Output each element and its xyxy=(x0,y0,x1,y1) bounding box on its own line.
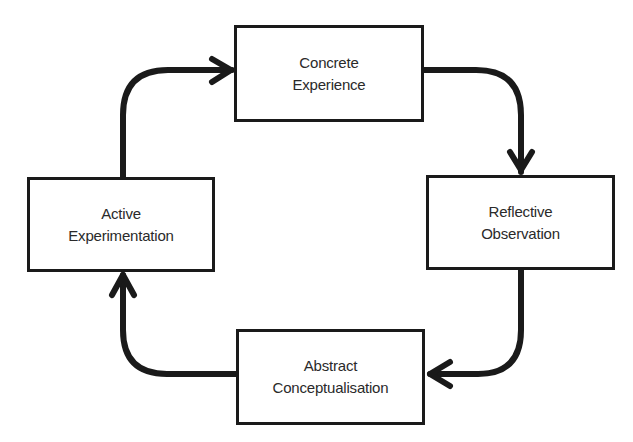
stage-label-line2: Experience xyxy=(292,74,365,96)
stage-label-line1: Abstract xyxy=(304,355,357,377)
arrow-experimentation-to-experience xyxy=(123,70,232,177)
stage-active-experimentation: Active Experimentation xyxy=(27,177,215,272)
stage-label-line2: Observation xyxy=(481,223,560,245)
stage-reflective-observation: Reflective Observation xyxy=(426,175,615,270)
arrow-experience-to-reflection xyxy=(424,70,521,172)
stage-label-line1: Reflective xyxy=(489,201,553,223)
stage-label-line1: Concrete xyxy=(299,52,358,74)
stage-abstract-conceptualisation: Abstract Conceptualisation xyxy=(236,329,425,425)
arrow-reflection-to-conceptualisation xyxy=(430,270,521,374)
stage-label-line2: Experimentation xyxy=(68,225,173,247)
arrow-conceptualisation-to-experimentation xyxy=(123,275,236,374)
stage-concrete-experience: Concrete Experience xyxy=(234,25,424,122)
stage-label-line1: Active xyxy=(101,203,141,225)
learning-cycle-diagram: Concrete Experience Reflective Observati… xyxy=(0,0,633,442)
stage-label-line2: Conceptualisation xyxy=(273,377,389,399)
